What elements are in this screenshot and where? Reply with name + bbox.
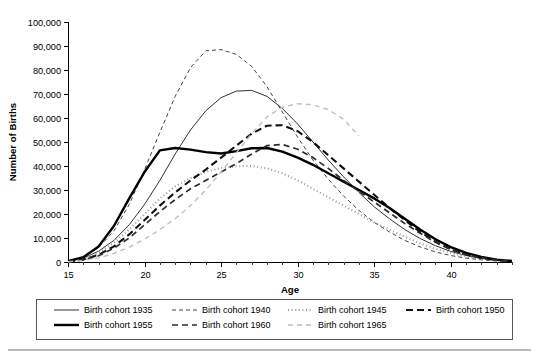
legend-label: Birth cohort 1935: [84, 305, 153, 315]
figure-container: 010,00020,00030,00040,00050,00060,00070,…: [0, 0, 539, 356]
x-axis-tick-label: 20: [140, 270, 150, 280]
y-axis-tick-label: 20,000: [33, 210, 61, 220]
x-axis-tick-label: 25: [216, 270, 226, 280]
legend-label: Birth cohort 1940: [202, 305, 271, 315]
y-axis-tick-label: 0: [56, 258, 61, 268]
x-axis-title: Age: [281, 284, 299, 295]
axis-labels: 010,00020,00030,00040,00050,00060,00070,…: [7, 18, 457, 295]
y-axis-tick-label: 50,000: [33, 138, 61, 148]
y-axis-title: Number of Births: [7, 103, 18, 181]
x-axis-tick-label: 35: [369, 270, 379, 280]
y-axis-tick-label: 70,000: [33, 90, 61, 100]
chart-legend: Birth cohort 1935Birth cohort 1940Birth …: [37, 300, 513, 340]
series-line-birth-cohort-1935: [68, 90, 512, 261]
y-axis-tick-label: 60,000: [33, 114, 61, 124]
y-axis-tick-label: 10,000: [33, 234, 61, 244]
y-axis-tick-label: 40,000: [33, 162, 61, 172]
x-axis-tick-label: 15: [63, 270, 73, 280]
series-lines: [68, 50, 512, 262]
y-axis-tick-label: 80,000: [33, 66, 61, 76]
legend-label: Birth cohort 1950: [436, 305, 505, 315]
series-line-birth-cohort-1965: [68, 104, 359, 262]
legend-label: Birth cohort 1955: [84, 320, 153, 330]
y-axis-tick-label: 90,000: [33, 42, 61, 52]
y-axis-tick-label: 30,000: [33, 186, 61, 196]
y-axis-tick-label: 100,000: [28, 18, 61, 28]
legend-label: Birth cohort 1965: [318, 320, 387, 330]
axes: [64, 22, 513, 267]
legend-label: Birth cohort 1945: [318, 305, 387, 315]
x-axis-tick-label: 30: [293, 270, 303, 280]
x-axis-tick-label: 40: [446, 270, 456, 280]
series-line-birth-cohort-1955: [68, 148, 512, 261]
legend-label: Birth cohort 1960: [202, 320, 271, 330]
births-by-cohort-line-chart: 010,00020,00030,00040,00050,00060,00070,…: [0, 0, 539, 356]
